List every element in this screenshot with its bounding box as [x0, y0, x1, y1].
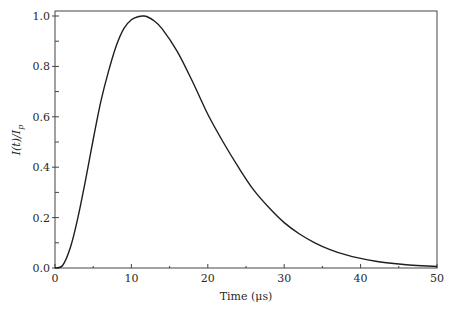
x-tick-label: 30 — [277, 272, 291, 285]
y-tick-label: 0.6 — [33, 111, 51, 124]
y-tick-label: 0.0 — [33, 262, 51, 275]
x-axis-ticks: 01020304050 — [52, 264, 445, 285]
y-tick-label: 1.0 — [33, 10, 51, 23]
plot-border — [55, 11, 437, 268]
y-tick-label: 0.2 — [33, 212, 51, 225]
x-axis-title: Time (μs) — [220, 290, 273, 303]
plot-frame — [55, 11, 437, 268]
y-axis-title: I(t)/Ip — [10, 125, 25, 157]
x-tick-label: 20 — [201, 272, 215, 285]
x-tick-label: 10 — [124, 272, 138, 285]
x-tick-label: 50 — [430, 272, 444, 285]
x-tick-label: 0 — [52, 272, 59, 285]
x-tick-label: 40 — [354, 272, 368, 285]
y-tick-label: 0.4 — [33, 161, 51, 174]
svg-text:I(t)/Ip: I(t)/Ip — [10, 125, 25, 157]
data-line — [55, 16, 437, 268]
y-tick-label: 0.8 — [33, 60, 51, 73]
pulse-chart: 01020304050 0.00.20.40.60.81.0 Time (μs)… — [0, 0, 450, 315]
